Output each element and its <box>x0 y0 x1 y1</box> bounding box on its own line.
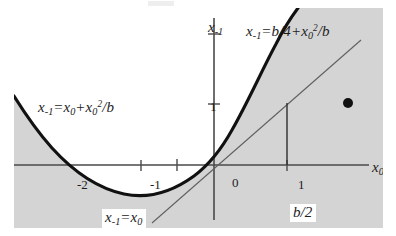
eq-ur-lhs: x <box>246 23 253 39</box>
tick-label-origin: 0 <box>232 176 239 189</box>
tick-label-y-one: 1 <box>210 100 217 113</box>
equation-identity: x-1=x0 <box>102 209 146 228</box>
y-axis-label-text: x <box>208 19 215 35</box>
b-half-text: b/2 <box>293 204 312 220</box>
equation-left: x-1=x0+x02/b <box>38 100 114 117</box>
eq-ur-tail: /b <box>318 23 330 39</box>
eq-d-lhs: x <box>105 209 112 225</box>
y-axis-label-sub: -1 <box>215 26 224 37</box>
scan-artifact <box>148 1 174 6</box>
eq-l-tail: /b <box>102 99 114 115</box>
eq-l-lhs: x <box>38 99 45 115</box>
eq-d-lhs-sub: -1 <box>112 216 121 227</box>
eq-d-rhs-sub: 0 <box>137 216 142 227</box>
eq-ur-eq: = <box>261 23 271 39</box>
eq-l-plus: +x <box>75 99 92 115</box>
math-figure: x-1=b/4+x02/b x-1=x0+x02/b x-1=x0 b/2 x-… <box>0 0 396 236</box>
eq-l-lhs-sub: -1 <box>45 106 54 117</box>
eq-l-eq: = <box>53 99 63 115</box>
plot-frame: x-1=b/4+x02/b x-1=x0+x02/b x-1=x0 b/2 x-… <box>14 8 383 228</box>
label-b-half: b/2 <box>290 204 316 222</box>
equation-upper-right: x-1=b/4+x02/b <box>246 24 330 41</box>
point-marker <box>343 98 353 108</box>
eq-ur-rhs: b/4+x <box>272 23 308 39</box>
x-axis-label-text: x <box>372 159 379 175</box>
eq-d-eq: = <box>120 209 130 225</box>
tick-label-minus-1: -1 <box>150 178 161 191</box>
x-axis-label: x0 <box>372 160 383 177</box>
tick-label-minus-2: -2 <box>77 178 88 191</box>
eq-ur-lhs-sub: -1 <box>253 30 262 41</box>
x-axis-label-sub: 0 <box>379 166 383 177</box>
y-axis-label: x-1 <box>208 20 223 37</box>
tick-label-one: 1 <box>298 178 305 191</box>
